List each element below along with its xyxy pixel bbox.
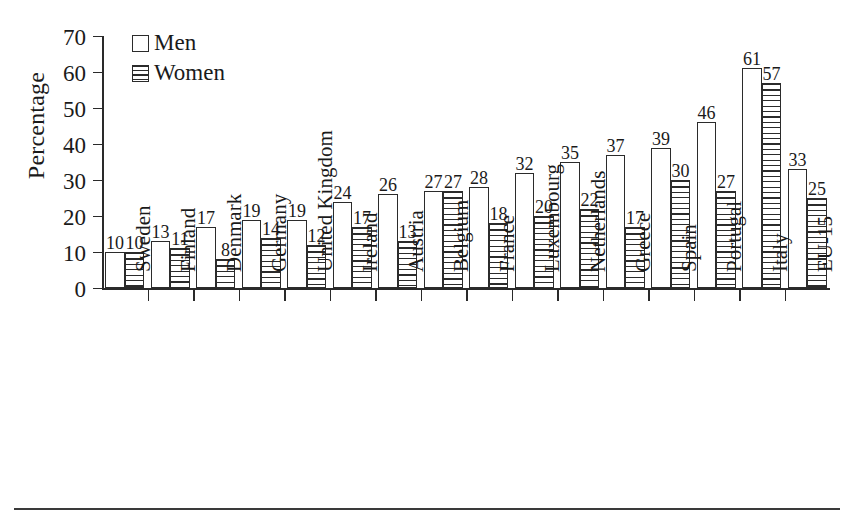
bar-value-label: 46 <box>698 104 716 122</box>
x-axis-category-label: Ireland <box>360 213 381 272</box>
x-axis-tick <box>785 289 787 301</box>
x-axis-tick <box>512 289 514 301</box>
x-axis-category-label: United Kingdom <box>315 130 336 272</box>
x-axis-category-label: France <box>497 215 518 272</box>
y-axis-tick-label: 70 <box>63 25 86 48</box>
x-axis-tick <box>694 289 696 301</box>
bar-value-label: 27 <box>717 173 735 191</box>
y-axis-tick: 60 <box>93 72 102 73</box>
x-axis-category-label: Netherlands <box>588 171 609 272</box>
bar-value-label: 26 <box>379 176 397 194</box>
x-axis-tick <box>375 289 377 301</box>
legend-item: Women <box>132 58 225 88</box>
bottom-divider-rule <box>14 508 840 510</box>
y-axis-tick: 0 <box>93 288 102 289</box>
y-axis-line <box>102 36 104 288</box>
bar-men: 10 <box>105 252 125 288</box>
y-axis-tick-label: 60 <box>63 61 86 84</box>
x-axis-tick <box>284 289 286 301</box>
x-axis-category-label: Austria <box>406 210 427 272</box>
y-axis-tick-label: 10 <box>63 241 86 264</box>
x-axis-category-label: Belgium <box>451 200 472 272</box>
x-axis-tick <box>557 289 559 301</box>
x-axis-tick <box>330 289 332 301</box>
chart-legend: MenWomen <box>132 28 225 89</box>
bar-value-label: 32 <box>516 155 534 173</box>
bar-value-label: 39 <box>652 130 670 148</box>
y-axis-title: Percentage <box>23 46 50 206</box>
x-axis-tick <box>239 289 241 301</box>
bar-value-label: 37 <box>607 137 625 155</box>
y-axis-tick: 70 <box>93 36 102 37</box>
bar-value-label: 27 <box>444 173 462 191</box>
x-axis-category-label: Germany <box>269 194 290 272</box>
bar-value-label: 57 <box>763 65 781 83</box>
y-axis-tick: 30 <box>93 180 102 181</box>
legend-item-label: Women <box>154 58 225 88</box>
x-axis-tick <box>739 289 741 301</box>
x-axis-tick <box>421 289 423 301</box>
bar-value-label: 25 <box>808 180 826 198</box>
y-axis-tick: 20 <box>93 216 102 217</box>
y-axis-tick: 10 <box>93 252 102 253</box>
x-axis-category-label: Greece <box>633 213 654 272</box>
x-axis-tick <box>466 289 468 301</box>
y-axis-tick-label: 30 <box>63 169 86 192</box>
legend-item: Men <box>132 28 225 58</box>
x-axis-tick <box>193 289 195 301</box>
x-axis-tick <box>648 289 650 301</box>
x-axis-category-label: Sweden <box>133 206 154 273</box>
x-axis-category-label: Finland <box>178 208 199 272</box>
y-axis-tick-label: 50 <box>63 97 86 120</box>
y-axis-tick-label: 20 <box>63 205 86 228</box>
legend-item-label: Men <box>154 28 196 58</box>
bar-value-label: 27 <box>425 173 443 191</box>
y-axis-tick: 40 <box>93 144 102 145</box>
x-axis-tick <box>603 289 605 301</box>
bar-value-label: 10 <box>106 234 124 252</box>
bar-value-label: 28 <box>470 169 488 187</box>
x-axis-category-label: EU-15 <box>815 216 836 272</box>
empty-square-icon <box>132 35 149 52</box>
y-axis-tick-label: 40 <box>63 133 86 156</box>
bar-value-label: 35 <box>561 144 579 162</box>
y-axis-tick-label: 0 <box>75 277 87 300</box>
bar-value-label: 61 <box>743 50 761 68</box>
bar-chart-figure: Percentage 706050403020100 1010131117819… <box>0 0 854 521</box>
bar-value-label: 30 <box>672 162 690 180</box>
hatched-square-icon <box>132 65 149 82</box>
bar-value-label: 33 <box>789 151 807 169</box>
y-axis-tick: 50 <box>93 108 102 109</box>
x-axis-tick <box>148 289 150 301</box>
x-axis-category-label: Denmark <box>224 194 245 272</box>
x-axis-category-label: Luxembourg <box>542 164 563 272</box>
x-axis-category-label: Italy <box>770 234 791 272</box>
x-axis-category-label: Portugal <box>724 201 745 272</box>
x-axis-category-label: Spain <box>679 224 700 272</box>
